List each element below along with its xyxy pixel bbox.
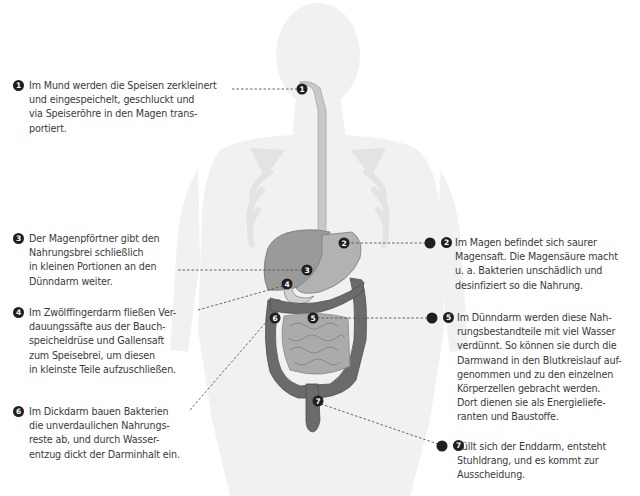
marker-3: 3: [302, 265, 313, 276]
callout-text: Füllt sich der Enddarm, entsteht Stuhldr…: [457, 440, 640, 483]
callout-text: Der Magenpförtner gibt den Nahrungsbrei …: [29, 232, 189, 289]
callout-number-badge: 6: [13, 406, 24, 417]
callout-duodenum: 4 Im Zwölffingerdarm fließen Ver- dauung…: [29, 306, 209, 377]
rectum: [306, 384, 320, 432]
callout-text: Im Mund werden die Speisen zerkleinert u…: [29, 79, 239, 136]
callout-pylorus: 3 Der Magenpförtner gibt den Nahrungsbre…: [29, 232, 189, 289]
svg-text:2: 2: [341, 239, 346, 248]
badge-2: 2: [441, 237, 452, 248]
callout-stomach: 2 Im Magen befindet sich saurer Magensaf…: [455, 236, 640, 293]
marker-5: 5: [308, 313, 319, 324]
svg-text:4: 4: [284, 280, 289, 289]
marker-2: 2: [339, 238, 350, 249]
callout-rectum: 7 Füllt sich der Enddarm, entsteht Stuhl…: [457, 440, 640, 483]
callout-small-intestine: 5 Im Dünndarm werden diese Nah- rungsbes…: [457, 311, 640, 425]
badge-5: 5: [443, 312, 454, 323]
callout-text: Im Zwölffingerdarm fließen Ver- dauungss…: [29, 306, 209, 377]
svg-text:1: 1: [299, 85, 304, 94]
callout-text: Im Magen befindet sich saurer Magensaft.…: [455, 236, 640, 293]
callout-number-badge: 4: [13, 307, 24, 318]
svg-text:6: 6: [272, 314, 277, 323]
callout-large-intestine: 6 Im Dickdarm bauen Bakterien die unverd…: [29, 405, 209, 462]
callout-mouth: 1 Im Mund werden die Speisen zerkleinert…: [29, 79, 239, 136]
marker-6: 6: [270, 313, 281, 324]
svg-text:3: 3: [304, 266, 309, 275]
marker-4: 4: [282, 279, 293, 290]
callout-number-badge: 3: [13, 233, 24, 244]
marker-7: 7: [313, 396, 324, 407]
badge-7: 7: [453, 440, 464, 451]
callout-text: Im Dickdarm bauen Bakterien die unverdau…: [29, 405, 209, 462]
svg-text:5: 5: [310, 314, 315, 323]
callout-number-badge: 1: [13, 80, 24, 91]
svg-text:7: 7: [315, 397, 320, 406]
marker-1: 1: [297, 84, 308, 95]
callout-text: Im Dünndarm werden diese Nah- rungsbesta…: [457, 311, 640, 425]
